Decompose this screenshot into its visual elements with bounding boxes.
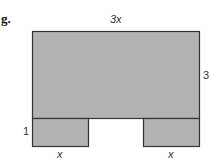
right-leg-rectangle [144,119,200,147]
left-leg-height-label: 1 [23,126,29,137]
main-rectangle [33,32,200,119]
left-leg-width-label: x [57,149,63,160]
right-height-label: 3 [203,70,209,81]
top-width-label: 3x [110,14,122,25]
right-leg-width-label: x [168,149,174,160]
composite-shape-figure: g. 3x 3 1 x x [0,0,211,161]
left-leg-rectangle [33,119,89,147]
shape-drawing [0,0,211,161]
